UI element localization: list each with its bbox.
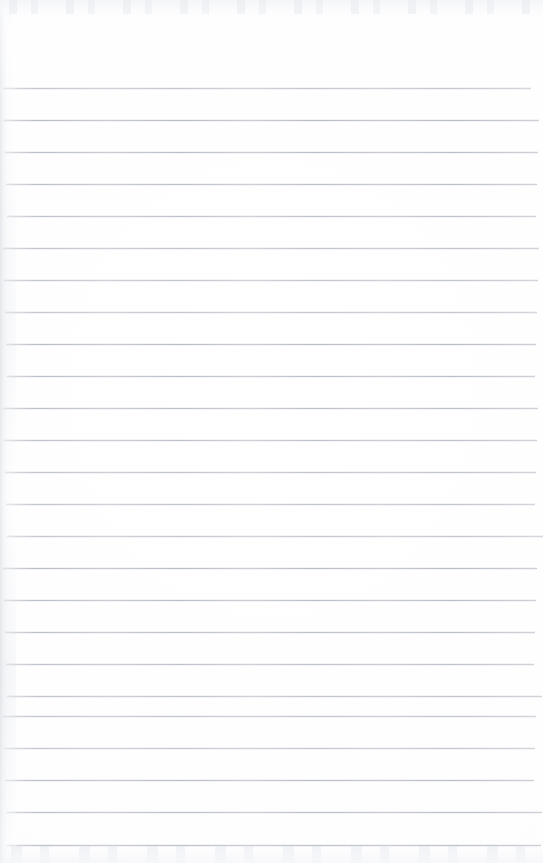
top-scan-speckle xyxy=(0,0,543,14)
writing-area xyxy=(0,0,543,863)
scanned-page xyxy=(0,0,543,863)
left-edge-shadow-variation xyxy=(0,0,16,863)
bottom-scan-noise-band xyxy=(0,846,543,863)
